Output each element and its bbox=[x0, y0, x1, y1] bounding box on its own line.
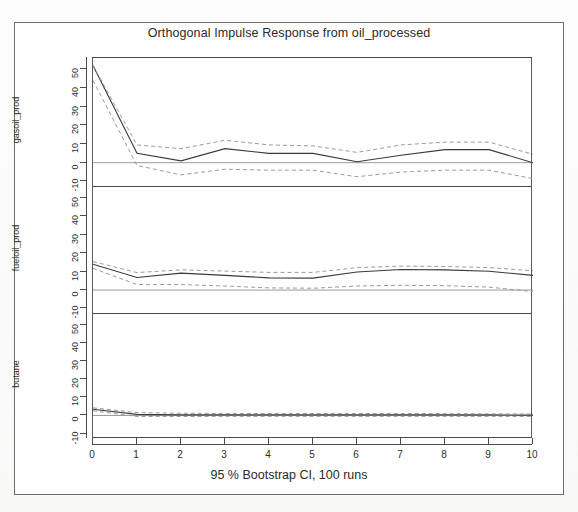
y-tick-label-fueloil_prod-30: 30 bbox=[75, 239, 85, 249]
panel-axis-title-gasoil_prod: gasoil_prod bbox=[11, 90, 21, 150]
y-tick-fueloil_prod-0 bbox=[80, 289, 86, 290]
panel-butane bbox=[92, 313, 532, 438]
x-tick-label-9: 9 bbox=[473, 449, 503, 460]
y-tick-butane-10 bbox=[80, 396, 86, 397]
x-tick-label-4: 4 bbox=[253, 449, 283, 460]
y-axis-fueloil_prod: -1001020304050fueloil_prod bbox=[0, 186, 92, 313]
y-tick-butane-0 bbox=[80, 414, 86, 415]
y-tick-label-butane-0: 0 bbox=[75, 419, 85, 424]
y-tick-label-fueloil_prod-10: 10 bbox=[75, 276, 85, 286]
y-tick-label-gasoil_prod-30: 30 bbox=[75, 111, 85, 121]
y-tick-gasoil_prod-50 bbox=[80, 68, 86, 69]
x-tick-label-0: 0 bbox=[77, 449, 107, 460]
figure-root: Orthogonal Impulse Response from oil_pro… bbox=[0, 0, 578, 512]
y-tick-label-butane-40: 40 bbox=[75, 347, 85, 357]
x-tick-label-5: 5 bbox=[297, 449, 327, 460]
y-tick-label-fueloil_prod-20: 20 bbox=[75, 257, 85, 267]
x-tick-label-3: 3 bbox=[209, 449, 239, 460]
x-tick-label-8: 8 bbox=[429, 449, 459, 460]
y-tick-gasoil_prod--10 bbox=[80, 180, 86, 181]
x-tick-9 bbox=[488, 438, 489, 444]
series-lower-95-ci-fueloil_prod bbox=[93, 268, 533, 291]
y-tick-fueloil_prod--10 bbox=[80, 307, 86, 308]
y-tick-label-gasoil_prod-10: 10 bbox=[75, 148, 85, 158]
plot-area-fueloil_prod bbox=[93, 187, 533, 314]
y-tick-label-fueloil_prod-0: 0 bbox=[75, 294, 85, 299]
y-tick-butane-40 bbox=[80, 342, 86, 343]
panel-fueloil_prod bbox=[92, 186, 532, 313]
x-tick-2 bbox=[180, 438, 181, 444]
y-axis-butane: -1001020304050butane bbox=[0, 313, 92, 438]
y-tick-butane-30 bbox=[80, 360, 86, 361]
y-tick-fueloil_prod-30 bbox=[80, 234, 86, 235]
y-tick-label-gasoil_prod-20: 20 bbox=[75, 129, 85, 139]
plot-area-butane bbox=[93, 314, 533, 439]
x-tick-label-2: 2 bbox=[165, 449, 195, 460]
x-axis-line bbox=[92, 444, 532, 445]
x-tick-7 bbox=[400, 438, 401, 444]
plot-area-gasoil_prod bbox=[93, 58, 533, 187]
y-tick-label-gasoil_prod-40: 40 bbox=[75, 92, 85, 102]
x-tick-label-6: 6 bbox=[341, 449, 371, 460]
y-tick-gasoil_prod-30 bbox=[80, 106, 86, 107]
x-tick-label-1: 1 bbox=[121, 449, 151, 460]
panel-axis-title-butane: butane bbox=[11, 344, 21, 404]
y-tick-label-butane-30: 30 bbox=[75, 365, 85, 375]
y-tick-gasoil_prod-40 bbox=[80, 87, 86, 88]
series-impulse-response-fueloil_prod bbox=[93, 264, 533, 278]
y-tick-label-gasoil_prod-50: 50 bbox=[75, 73, 85, 83]
x-tick-8 bbox=[444, 438, 445, 444]
x-tick-label-10: 10 bbox=[517, 449, 547, 460]
x-tick-6 bbox=[356, 438, 357, 444]
series-upper-95-ci-gasoil_prod bbox=[93, 65, 533, 154]
panel-stack bbox=[92, 57, 532, 438]
y-tick-fueloil_prod-20 bbox=[80, 252, 86, 253]
y-tick-label-butane-20: 20 bbox=[75, 383, 85, 393]
panel-axis-title-fueloil_prod: fueloil_prod bbox=[11, 218, 21, 278]
figure-caption: 95 % Bootstrap CI, 100 runs bbox=[14, 468, 564, 482]
y-tick-gasoil_prod-10 bbox=[80, 143, 86, 144]
y-tick-gasoil_prod-20 bbox=[80, 124, 86, 125]
series-upper-95-ci-butane bbox=[93, 408, 533, 414]
y-tick-label-fueloil_prod-50: 50 bbox=[75, 202, 85, 212]
y-tick-fueloil_prod-40 bbox=[80, 215, 86, 216]
page-title: Orthogonal Impulse Response from oil_pro… bbox=[14, 26, 564, 40]
y-tick-label-fueloil_prod-40: 40 bbox=[75, 220, 85, 230]
y-tick-butane-20 bbox=[80, 378, 86, 379]
series-lower-95-ci-gasoil_prod bbox=[93, 80, 533, 178]
y-tick-label-butane-10: 10 bbox=[75, 401, 85, 411]
y-tick-fueloil_prod-50 bbox=[80, 197, 86, 198]
y-tick-label-gasoil_prod-0: 0 bbox=[75, 167, 85, 172]
y-tick-fueloil_prod-10 bbox=[80, 271, 86, 272]
panel-gasoil_prod bbox=[92, 57, 532, 186]
x-tick-5 bbox=[312, 438, 313, 444]
x-tick-0 bbox=[92, 438, 93, 444]
x-tick-1 bbox=[136, 438, 137, 444]
y-tick-butane--10 bbox=[80, 433, 86, 434]
x-tick-label-7: 7 bbox=[385, 449, 415, 460]
y-tick-label-butane-50: 50 bbox=[75, 329, 85, 339]
x-tick-10 bbox=[532, 438, 533, 444]
y-axis-spine-fueloil_prod bbox=[86, 186, 87, 313]
y-axis-spine-gasoil_prod bbox=[86, 57, 87, 186]
y-axis-gasoil_prod: -1001020304050gasoil_prod bbox=[0, 57, 92, 186]
y-tick-butane-50 bbox=[80, 324, 86, 325]
series-impulse-response-gasoil_prod bbox=[93, 65, 533, 162]
x-tick-3 bbox=[224, 438, 225, 444]
x-tick-4 bbox=[268, 438, 269, 444]
y-axis-spine-butane bbox=[86, 313, 87, 438]
y-tick-gasoil_prod-0 bbox=[80, 162, 86, 163]
